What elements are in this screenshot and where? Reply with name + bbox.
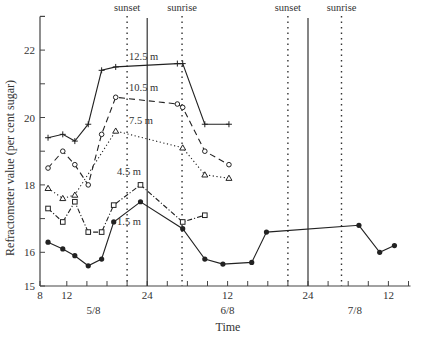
y-tick-label: 16 [24, 246, 36, 258]
filled-circle-marker [264, 229, 269, 234]
circle-marker [227, 162, 232, 167]
series-label: 1.5 m [117, 216, 141, 227]
axes: 1516182022812241224125/86/87/8 [24, 16, 411, 316]
circle-marker [46, 166, 51, 171]
triangle-marker [180, 145, 186, 150]
triangle-marker [113, 128, 119, 133]
circle-marker [180, 105, 185, 110]
series-label: 10.5 m [129, 82, 158, 93]
filled-circle-marker [45, 240, 50, 245]
sunset-label: sunset [114, 2, 140, 13]
filled-circle-marker [220, 261, 225, 266]
x-tick-label: 12 [383, 289, 394, 301]
series-label: 4.5 m [117, 166, 141, 177]
square-marker [73, 199, 78, 204]
filled-circle-marker [72, 253, 77, 258]
filled-circle-marker [356, 223, 361, 228]
sunset-label: sunset [275, 2, 301, 13]
square-marker [203, 213, 208, 218]
square-marker [86, 230, 91, 235]
square-marker [60, 220, 65, 225]
filled-circle-marker [202, 256, 207, 261]
y-tick-label: 22 [24, 44, 35, 56]
refractometer-chart: 1516182022812241224125/86/87/8 sunsetsun… [0, 0, 426, 339]
triangle-marker [45, 185, 51, 190]
y-tick-label: 20 [24, 112, 36, 124]
square-marker [111, 203, 116, 208]
x-tick-label: 24 [142, 289, 154, 301]
date-label: 6/8 [221, 304, 236, 316]
sunrise-label: sunrise [327, 2, 357, 13]
y-axis-label: Refractometer value (per cent sugar) [3, 80, 17, 256]
filled-circle-marker [60, 246, 65, 251]
filled-circle-marker [392, 243, 397, 248]
x-tick-label: 12 [61, 289, 72, 301]
circle-marker [86, 183, 91, 188]
square-marker [46, 206, 51, 211]
x-tick-label: 12 [222, 289, 233, 301]
sunrise-label: sunrise [167, 2, 197, 13]
series-12-5m: 12.5 m [45, 51, 232, 144]
circle-marker [60, 149, 65, 154]
filled-circle-marker [249, 260, 254, 265]
series-group: 12.5 m10.5 m7.5 m4.5 m1.5 m [45, 51, 397, 268]
square-marker [180, 220, 185, 225]
day-night-markers: sunsetsunrisesunsetsunrise [114, 2, 357, 286]
x-tick-label: 24 [303, 289, 315, 301]
y-tick-label: 18 [24, 179, 36, 191]
circle-marker [175, 102, 180, 107]
circle-marker [73, 162, 78, 167]
series-7-5m: 7.5 m [45, 115, 232, 200]
filled-circle-marker [99, 256, 104, 261]
series-line [48, 64, 229, 142]
y-tick-label: 15 [24, 280, 36, 292]
triangle-marker [60, 195, 66, 200]
filled-circle-marker [138, 199, 143, 204]
date-label: 5/8 [87, 304, 102, 316]
filled-circle-marker [86, 263, 91, 268]
filled-circle-marker [180, 226, 185, 231]
square-marker [138, 183, 143, 188]
circle-marker [113, 95, 118, 100]
series-label: 7.5 m [129, 115, 153, 126]
series-label: 12.5 m [129, 51, 158, 62]
x-tick-label: 8 [37, 289, 43, 301]
filled-circle-marker [111, 219, 116, 224]
circle-marker [203, 149, 208, 154]
circle-marker [99, 132, 104, 137]
square-marker [99, 230, 104, 235]
filled-circle-marker [377, 250, 382, 255]
x-axis-label: Time [216, 320, 241, 334]
triangle-marker [226, 175, 232, 180]
chart-canvas: 1516182022812241224125/86/87/8 sunsetsun… [0, 0, 426, 339]
series-1-5m: 1.5 m [45, 199, 397, 268]
triangle-marker [72, 192, 78, 197]
date-label: 7/8 [348, 304, 363, 316]
